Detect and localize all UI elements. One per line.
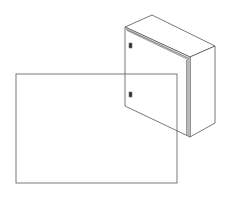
enclosure-cabinet [125,15,215,137]
upper-latch-icon [129,43,132,48]
drawing-canvas [0,0,232,198]
lower-latch-icon [129,92,132,97]
cabinet-side-face [190,46,215,137]
enclosure-drawing [0,0,232,198]
